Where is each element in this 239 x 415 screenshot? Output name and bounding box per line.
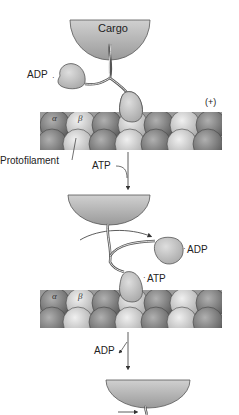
atp-transition-label: ATP	[92, 161, 111, 171]
adp-dot-2: ·	[183, 245, 186, 253]
motor-head-atp	[120, 272, 143, 302]
plus-end-label: (+)	[205, 98, 216, 107]
adp-label-2: ADP	[187, 245, 208, 255]
motor-head-adp	[58, 64, 85, 89]
protofilament-label: Protofilament	[0, 156, 59, 166]
panel-3	[106, 380, 190, 415]
cargo-vesicle-3	[106, 380, 190, 408]
swing-arrow	[80, 230, 150, 240]
alpha-tubulin-label-2: α	[52, 292, 57, 301]
panel-1	[37, 20, 226, 160]
adp-label-1: ADP	[27, 70, 48, 80]
atp-dot-2: ·	[143, 274, 146, 282]
diagram-canvas	[0, 0, 239, 415]
motor-head-adp-2	[154, 237, 183, 264]
alpha-tubulin-label-1: α	[52, 114, 57, 123]
beta-tubulin-label-1: β	[78, 114, 82, 123]
adp-transition-label: ADP	[94, 346, 115, 356]
transition-adp	[120, 332, 128, 368]
cargo-label: Cargo	[98, 23, 128, 34]
atp-label-2: ATP	[147, 274, 166, 284]
panel-2	[37, 195, 226, 337]
transition-atp	[116, 152, 128, 188]
kinesin-walking-diagram: Cargo ADP · (+) α β Protofilament ATP AD…	[0, 0, 239, 415]
beta-tubulin-label-2: β	[78, 292, 82, 301]
cargo-vesicle-2	[68, 195, 150, 225]
adp-dot-1: ·	[52, 74, 55, 82]
